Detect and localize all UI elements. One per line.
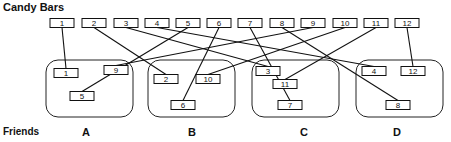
svg-text:11: 11 xyxy=(372,19,381,28)
connection-line xyxy=(282,28,398,101)
svg-text:1: 1 xyxy=(60,19,65,28)
svg-text:4: 4 xyxy=(155,19,160,28)
svg-text:2: 2 xyxy=(92,19,97,28)
candy-bar-box: 10 xyxy=(333,19,357,29)
svg-text:9: 9 xyxy=(114,66,119,75)
candy-bar-box: 7 xyxy=(238,19,262,29)
candy-bar-box: 9 xyxy=(301,19,325,29)
member-box: 3 xyxy=(256,67,280,77)
candy-bar-row: 123456789101112 xyxy=(50,19,419,29)
member-box: 8 xyxy=(386,101,410,111)
connection-line xyxy=(407,28,413,67)
candy-bar-box: 4 xyxy=(145,19,169,29)
candy-friends-diagram: 123456789101112 195210631174128 xyxy=(0,0,451,142)
group-members: 195210631174128 xyxy=(54,66,425,111)
svg-text:7: 7 xyxy=(288,101,293,110)
svg-text:3: 3 xyxy=(266,67,271,76)
svg-text:11: 11 xyxy=(281,80,290,89)
connection-line xyxy=(62,28,66,69)
member-box: 6 xyxy=(171,101,195,111)
svg-text:9: 9 xyxy=(311,19,316,28)
svg-text:3: 3 xyxy=(124,19,129,28)
member-box: 11 xyxy=(273,80,297,90)
member-box: 5 xyxy=(70,92,94,102)
connection-line xyxy=(183,28,219,101)
svg-text:5: 5 xyxy=(80,92,85,101)
svg-text:2: 2 xyxy=(164,75,169,84)
candy-bar-box: 2 xyxy=(82,19,106,29)
svg-text:8: 8 xyxy=(280,19,285,28)
member-box: 9 xyxy=(104,66,128,76)
svg-text:5: 5 xyxy=(186,19,191,28)
svg-text:12: 12 xyxy=(403,19,412,28)
connection-lines xyxy=(62,28,413,101)
svg-text:8: 8 xyxy=(396,101,401,110)
candy-bar-box: 1 xyxy=(50,19,74,29)
candy-bar-box: 6 xyxy=(207,19,231,29)
svg-text:10: 10 xyxy=(204,75,213,84)
svg-text:12: 12 xyxy=(409,67,418,76)
candy-bar-box: 5 xyxy=(176,19,200,29)
svg-text:6: 6 xyxy=(181,101,186,110)
candy-bar-box: 12 xyxy=(395,19,419,29)
svg-text:1: 1 xyxy=(64,69,69,78)
candy-bar-box: 3 xyxy=(114,19,138,29)
candy-bar-box: 8 xyxy=(270,19,294,29)
member-box: 4 xyxy=(362,67,386,77)
member-box: 1 xyxy=(54,69,78,79)
svg-text:7: 7 xyxy=(248,19,253,28)
svg-text:10: 10 xyxy=(341,19,350,28)
member-box: 10 xyxy=(196,75,220,85)
candy-bar-box: 11 xyxy=(364,19,388,29)
svg-text:6: 6 xyxy=(217,19,222,28)
member-box: 12 xyxy=(401,67,425,77)
member-box: 2 xyxy=(154,75,178,85)
member-box: 7 xyxy=(278,101,302,111)
svg-text:4: 4 xyxy=(372,67,377,76)
